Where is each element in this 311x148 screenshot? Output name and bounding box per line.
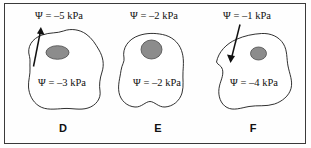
- cell-panel-e: [119, 33, 184, 107]
- internal-water-potential-e: Ψ = –2 kPa: [116, 77, 198, 88]
- external-water-potential-e: Ψ = –2 kPa: [113, 10, 195, 21]
- external-water-potential-d: Ψ = –5 kPa: [18, 10, 100, 21]
- panel-letter-d: D: [48, 122, 78, 134]
- panel-letter-e: E: [143, 122, 173, 134]
- nucleus-e: [141, 40, 162, 59]
- internal-water-potential-f: Ψ = –4 kPa: [213, 77, 295, 88]
- nucleus-d: [46, 46, 69, 60]
- cell-panel-d: [28, 27, 103, 109]
- panel-letter-f: F: [238, 122, 268, 134]
- nucleus-f: [251, 47, 267, 60]
- cell-membrane-d: [28, 30, 103, 110]
- figure-container: Ψ = –5 kPa Ψ = –2 kPa Ψ = –1 kPa Ψ = –3 …: [0, 0, 311, 148]
- external-water-potential-f: Ψ = –1 kPa: [206, 10, 288, 21]
- cell-membrane-f: [217, 33, 292, 109]
- cell-panel-f: [217, 25, 292, 110]
- internal-water-potential-d: Ψ = –3 kPa: [21, 77, 103, 88]
